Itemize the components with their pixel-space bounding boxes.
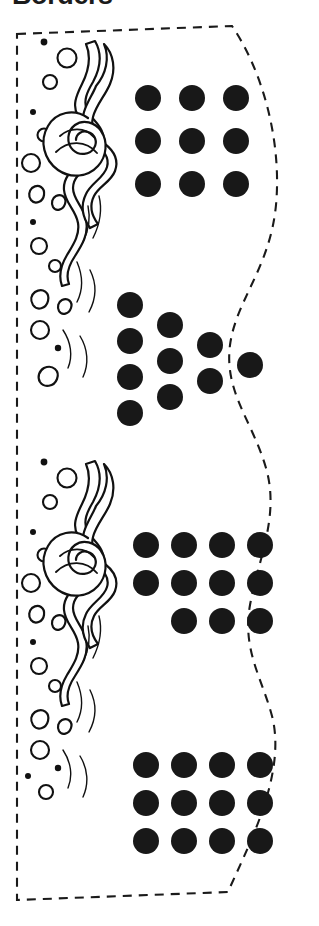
dot: [209, 532, 235, 558]
dot: [117, 292, 143, 318]
group-1-square-grid: [135, 85, 249, 197]
bubble-teardrop-icon: [31, 290, 48, 308]
dot: [157, 312, 183, 338]
dot-groups-layer: [117, 85, 273, 854]
wave-flourish-bottom: [22, 459, 116, 799]
dot: [135, 85, 161, 111]
dot: [135, 128, 161, 154]
dot: [247, 532, 273, 558]
dot: [117, 364, 143, 390]
dot: [171, 790, 197, 816]
dot: [209, 608, 235, 634]
dot: [179, 171, 205, 197]
dot: [247, 752, 273, 778]
bubble-dot-icon: [30, 219, 36, 225]
dot: [197, 368, 223, 394]
bubble-circle-icon: [22, 154, 40, 172]
flourish-accent-line: [77, 682, 82, 722]
dot: [179, 85, 205, 111]
dot: [133, 828, 159, 854]
bubble-circle-icon: [39, 785, 53, 799]
dot: [179, 128, 205, 154]
bubble-dot-icon: [55, 765, 61, 771]
dot: [223, 171, 249, 197]
dot: [237, 352, 263, 378]
dot: [133, 570, 159, 596]
flourish-accent-line: [63, 750, 71, 788]
group-3-offset-grid: [133, 532, 273, 634]
bubble-teardrop-icon: [39, 367, 58, 386]
flourish-accent-line: [80, 336, 87, 377]
dot: [133, 752, 159, 778]
bubble-circle-icon: [31, 321, 49, 339]
bubble-dot-icon: [25, 773, 31, 779]
flourish-accent-line: [63, 330, 71, 368]
bubble-teardrop-icon: [58, 299, 71, 314]
dot: [171, 570, 197, 596]
bubble-circle-icon: [49, 260, 61, 272]
flourish-accent-line: [89, 690, 95, 732]
dot: [247, 828, 273, 854]
group-4-full-grid: [133, 752, 273, 854]
bubble-dot-icon: [41, 459, 48, 466]
bubble-circle-icon: [49, 680, 61, 692]
bubble-dot-icon: [30, 639, 36, 645]
bubble-teardrop-icon: [58, 719, 71, 734]
dot: [171, 828, 197, 854]
dot: [209, 570, 235, 596]
bubble-teardrop-icon: [52, 195, 65, 210]
bubble-circle-icon: [22, 574, 40, 592]
dot: [247, 608, 273, 634]
dot: [133, 532, 159, 558]
dot: [135, 171, 161, 197]
flourish-accent-line: [80, 756, 87, 797]
dot: [157, 384, 183, 410]
bubble-circle-icon: [58, 469, 77, 488]
bubble-teardrop-icon: [29, 186, 44, 203]
bubble-circle-icon: [43, 495, 57, 509]
bubble-dot-icon: [30, 529, 36, 535]
bubble-circle-icon: [58, 49, 77, 68]
bubble-dot-icon: [30, 109, 36, 115]
bubble-circle-icon: [31, 238, 47, 254]
bubble-teardrop-icon: [29, 606, 44, 623]
bubble-teardrop-icon: [31, 710, 48, 728]
dot: [117, 328, 143, 354]
dot: [171, 608, 197, 634]
bubble-teardrop-icon: [52, 615, 65, 630]
dot: [197, 332, 223, 358]
dot: [209, 752, 235, 778]
wave-flourish-top: [22, 39, 116, 386]
bubble-circle-icon: [43, 75, 57, 89]
cutout-sheet: [0, 0, 319, 926]
dot: [247, 570, 273, 596]
dot: [209, 828, 235, 854]
bubble-circle-icon: [31, 741, 49, 759]
dot: [171, 532, 197, 558]
bubble-dot-icon: [41, 39, 48, 46]
dot: [223, 128, 249, 154]
flourish-accent-line: [89, 270, 95, 312]
dot: [117, 400, 143, 426]
dot: [133, 790, 159, 816]
bubble-circle-icon: [31, 658, 47, 674]
bubble-dot-icon: [55, 345, 61, 351]
dot: [171, 752, 197, 778]
dot: [247, 790, 273, 816]
dot: [157, 348, 183, 374]
dot: [223, 85, 249, 111]
flourish-accent-line: [77, 262, 82, 302]
dot: [209, 790, 235, 816]
